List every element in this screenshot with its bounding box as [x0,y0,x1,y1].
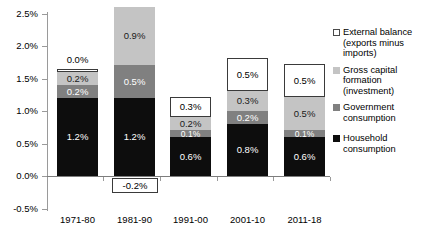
y-tick-mark [42,144,47,145]
x-axis-line [47,176,330,177]
bar-segment-gcf[interactable]: 0.3% [227,91,268,111]
bar-label-external: 0.0% [57,55,98,65]
legend-item-government-consumption[interactable]: Governmentconsumption [333,102,426,123]
y-axis-label-2-5: 2.5% [0,9,38,19]
x-axis-label-1971-80: 1971-80 [48,214,107,225]
bar-segment-household[interactable]: 1.2% [57,98,98,176]
x-tick-mark [217,177,218,181]
legend-label-government-consumption: Governmentconsumption [343,102,396,123]
bar-segment-household[interactable]: 0.6% [284,137,325,176]
white-square-icon [333,29,340,36]
bar-segment-external[interactable]: -0.2% [112,178,158,193]
bar-segment-gcf[interactable]: 0.2% [57,72,98,85]
legend-item-gross-capital-formation[interactable]: Gross capitalformation(investment) [333,65,426,97]
y-tick-mark [42,14,47,15]
y-tick-mark [42,209,47,210]
x-tick-mark [160,177,161,181]
y-axis-label-2-0: 2.0% [0,41,38,51]
bar-segment-government[interactable]: 0.1% [170,130,211,137]
legend-label-external-balance: External balance(exports minusimports) [343,27,412,59]
bar-segment-external[interactable] [57,69,98,72]
stacked-bar-chart: 2.5% 2.0% 1.5% 1.0% 0.5% 0.0% -0.5% 1.2%… [0,0,426,240]
x-tick-mark [330,177,331,181]
y-axis-label-1-0: 1.0% [0,106,38,116]
bar-segment-government[interactable]: 0.2% [227,111,268,124]
x-axis-label-2011-18: 2011-18 [275,214,334,225]
y-tick-mark [42,176,47,177]
y-axis-line [47,12,48,211]
gray-square-icon [333,104,340,111]
lightgray-square-icon [333,67,340,74]
y-axis-label-0-0: 0.0% [0,171,38,181]
x-tick-mark [273,177,274,181]
bar-segment-household[interactable]: 1.2% [114,98,155,176]
bar-segment-external[interactable]: 0.5% [284,64,325,97]
x-axis-label-1991-00: 1991-00 [161,214,220,225]
bar-segment-gcf[interactable]: 0.9% [114,7,155,65]
y-tick-mark [42,111,47,112]
black-square-icon [333,135,340,142]
legend-item-household-consumption[interactable]: Householdconsumption [333,133,426,154]
bar-segment-household[interactable]: 0.8% [227,124,268,176]
y-axis-label-1-5: 1.5% [0,74,38,84]
y-tick-mark [42,46,47,47]
x-axis-label-2001-10: 2001-10 [218,214,277,225]
legend-label-gross-capital-formation: Gross capitalformation(investment) [343,65,397,97]
chart-legend: External balance(exports minusimports) G… [333,27,426,160]
legend-label-household-consumption: Householdconsumption [343,133,396,154]
bar-segment-gcf[interactable]: 0.2% [170,117,211,130]
bar-segment-government[interactable]: 0.2% [57,85,98,98]
bar-segment-external[interactable]: 0.5% [227,58,268,91]
y-tick-mark [42,79,47,80]
bar-segment-external[interactable]: 0.3% [170,97,211,117]
bar-segment-gcf[interactable]: 0.5% [284,97,325,130]
y-axis-label-neg-0-5: -0.5% [0,204,38,214]
bar-segment-government[interactable]: 0.1% [284,130,325,137]
y-axis-label-0-5: 0.5% [0,139,38,149]
legend-item-external-balance[interactable]: External balance(exports minusimports) [333,27,426,59]
x-tick-mark [103,177,104,181]
bar-segment-household[interactable]: 0.6% [170,137,211,176]
x-axis-label-1981-90: 1981-90 [105,214,164,225]
bar-segment-government[interactable]: 0.5% [114,65,155,98]
